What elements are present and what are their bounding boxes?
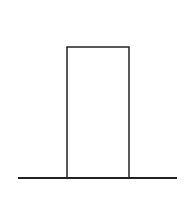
block-rectangle bbox=[67, 47, 129, 178]
diagram-canvas bbox=[0, 0, 192, 202]
